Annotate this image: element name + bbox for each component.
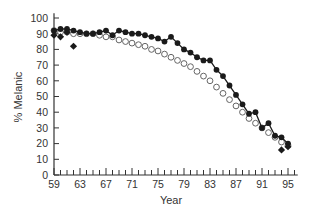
data-point [259,125,265,131]
data-point [149,34,155,40]
data-point [168,54,174,60]
data-point [110,32,116,38]
y-tick-label: 60 [36,75,48,87]
data-point [155,48,161,54]
data-point [70,43,77,50]
data-point [116,28,122,34]
data-point [201,57,207,63]
data-point [207,78,213,84]
data-point [103,34,109,40]
data-point [175,57,181,63]
y-tick-label: 20 [36,137,48,149]
data-point [97,29,103,35]
series-layer [50,26,291,153]
data-point [278,146,285,153]
data-point [175,40,181,46]
data-point [123,39,129,45]
data-point [168,34,174,40]
x-axis-title: Year [160,194,183,206]
data-point [77,29,83,35]
y-tick-label: 10 [36,153,48,165]
data-point [84,31,90,37]
data-point [129,31,135,37]
data-point [233,92,239,98]
series-filled-circle [51,26,291,146]
axes: 0102030405060708090100596367717579838791… [30,12,297,190]
data-point [123,29,129,35]
x-tick-label: 87 [230,178,242,190]
data-point [181,47,187,53]
series-open-circle [51,28,291,148]
data-point [227,83,233,89]
data-point [103,28,109,34]
data-point [142,32,148,38]
data-point [220,73,226,79]
data-point [71,28,77,34]
data-point [116,37,122,43]
y-tick-label: 40 [36,106,48,118]
x-tick-label: 83 [204,178,216,190]
data-point [194,54,200,60]
chart: 0102030405060708090100596367717579838791… [0,0,312,214]
series-line [54,29,288,144]
data-point [220,90,226,96]
x-tick-label: 67 [100,178,112,190]
data-point [194,68,200,74]
x-tick-label: 71 [126,178,138,190]
data-point [272,133,278,139]
data-point [136,31,142,37]
data-point [266,120,272,126]
data-point [253,109,259,115]
data-point [214,84,220,90]
series-filled-diamond [50,29,291,154]
y-tick-label: 30 [36,122,48,134]
y-tick-label: 50 [36,90,48,102]
data-point [240,101,246,107]
data-point [233,103,239,109]
y-tick-label: 100 [30,12,48,24]
data-point [188,64,194,70]
x-tick-label: 75 [152,178,164,190]
y-tick-label: 90 [36,28,48,40]
x-tick-label: 63 [74,178,86,190]
data-point [266,130,272,136]
data-point [90,31,96,37]
data-point [181,61,187,67]
y-tick-label: 80 [36,43,48,55]
x-tick-label: 59 [48,178,60,190]
data-point [58,26,64,32]
x-tick-label: 95 [282,178,294,190]
data-point [227,97,233,103]
data-point [136,42,142,48]
y-axis-title: % Melanic [12,71,24,122]
data-point [246,111,252,117]
data-point [279,134,285,140]
data-point [162,51,168,57]
y-tick-label: 70 [36,59,48,71]
x-tick-label: 91 [256,178,268,190]
data-point [162,39,168,45]
data-point [129,40,135,46]
x-tick-label: 79 [178,178,190,190]
data-point [149,47,155,53]
data-point [142,43,148,49]
data-point [240,109,246,115]
data-point [188,50,194,56]
data-point [201,73,207,79]
data-point [253,120,259,126]
data-point [155,36,161,42]
data-point [207,57,213,63]
data-point [214,67,220,73]
